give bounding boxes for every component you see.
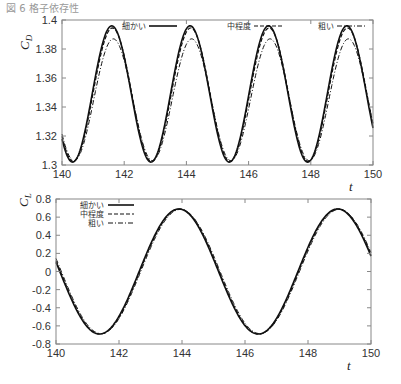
x-tick-label: 142	[110, 347, 128, 359]
x-tick-label: 148	[302, 168, 320, 180]
legend-label: 細かい	[80, 200, 104, 210]
y-tick-label: 0.6	[36, 211, 51, 223]
x-tick-label: 148	[299, 347, 317, 359]
y-tick-label: 0.2	[36, 247, 51, 259]
legend-label: 中程度	[80, 209, 104, 219]
drag-coefficient-chart: 1401421441461481501.31.321.341.361.381.4…	[17, 14, 382, 194]
x-tick-label: 144	[177, 168, 195, 180]
legend-label: 粗い	[318, 21, 334, 31]
figure-canvas: 1401421441461481501.31.321.341.361.381.4…	[0, 0, 401, 384]
series-lines	[62, 26, 373, 162]
y-tick-label: 1.32	[36, 130, 57, 142]
y-tick-label: 1.38	[36, 43, 57, 55]
x-tick-label: 144	[173, 347, 191, 359]
y-tick-label: 0.4	[36, 229, 51, 241]
y-tick-label: 1.34	[36, 101, 57, 113]
x-tick-label: 150	[364, 168, 382, 180]
legend-label: 粗い	[88, 218, 104, 228]
x-tick-label: 142	[115, 168, 133, 180]
y-axis-label: CD	[17, 34, 34, 50]
lift-coefficient-chart: 140142144146148150-0.8-0.6-0.4-0.200.20.…	[16, 193, 380, 373]
y-tick-label: -0.2	[32, 284, 51, 296]
y-tick-label: -0.6	[32, 320, 51, 332]
y-tick-label: -0.4	[32, 302, 51, 314]
y-tick-label: 1.3	[42, 159, 57, 171]
x-axis-label: t	[349, 179, 353, 194]
legend: 細かい中程度粗い	[122, 21, 365, 31]
legend-label: 細かい	[122, 21, 146, 31]
legend-label: 中程度	[227, 21, 251, 31]
series-line	[56, 209, 371, 333]
y-tick-label: 0	[45, 266, 51, 278]
y-tick-label: -0.8	[32, 338, 51, 350]
x-axis-label: t	[347, 358, 351, 373]
x-tick-label: 150	[362, 347, 380, 359]
plot-frame	[62, 20, 373, 165]
series-line	[62, 26, 373, 162]
y-tick-label: 1.4	[42, 14, 57, 26]
y-axis-label: CL	[16, 193, 33, 207]
x-tick-label: 146	[236, 347, 254, 359]
y-tick-label: 1.36	[36, 72, 57, 84]
y-tick-label: 0.8	[36, 193, 51, 205]
legend: 細かい中程度粗い	[80, 200, 134, 228]
x-tick-label: 146	[239, 168, 257, 180]
